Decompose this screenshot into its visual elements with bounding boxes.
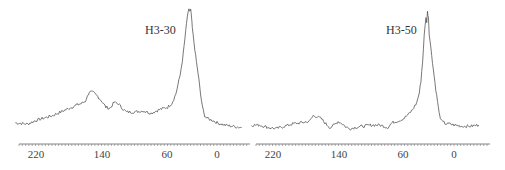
x-tick-label: 140 [331,148,348,160]
x-tick-label: 60 [398,148,409,160]
spectrum-line [15,9,241,128]
x-tick-label: 220 [265,148,282,160]
nmr-spectra-chart [0,0,505,170]
x-tick-label: 140 [94,148,111,160]
spectrum-panel-h3-30 [15,9,250,146]
x-tick-label: 220 [28,148,45,160]
spectrum-panel-h3-50 [251,11,490,146]
x-tick-label: 0 [451,148,457,160]
spectrum-line [251,11,478,130]
x-tick-label: 0 [214,148,220,160]
x-tick-label: 60 [162,148,173,160]
spectrum-label-h3-30: H3-30 [145,23,176,38]
spectrum-label-h3-50: H3-50 [386,23,417,38]
